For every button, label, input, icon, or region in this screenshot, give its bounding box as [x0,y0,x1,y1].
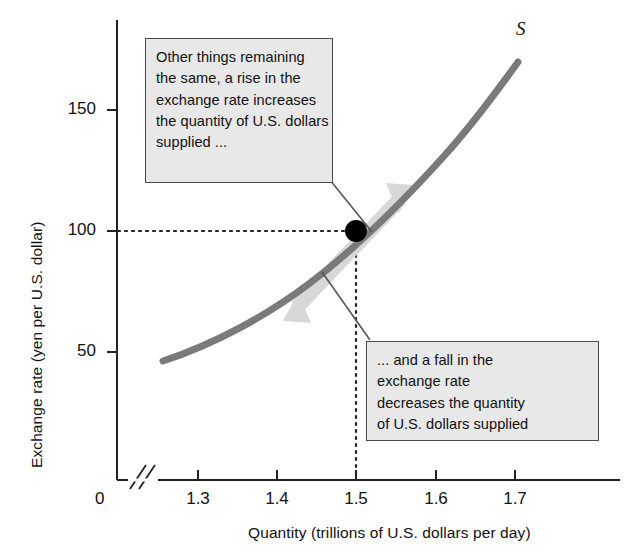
callout-fall-in-exchange-rate: ... and a fall in the exchange rate decr… [366,341,599,441]
callout-rise-in-exchange-rate: Other things remaining the same, a rise … [145,38,333,183]
x-tick-label-1-3: 1.3 [175,489,221,509]
supply-curve-label: S [516,18,526,40]
x-tick-label-1-6: 1.6 [413,489,459,509]
y-tick-label-150: 150 [52,99,96,119]
x-tick-label-1-5: 1.5 [333,489,379,509]
origin-label: 0 [95,489,104,509]
callout-fall-line-4: of U.S. dollars supplied [377,414,589,435]
x-axis-title: Quantity (trillions of U.S. dollars per … [248,524,531,542]
callout-fall-line-3: decreases the quantity [377,393,589,414]
x-tick-label-1-7: 1.7 [492,489,538,509]
callout-rise-line-2: the same, a rise in the [156,68,323,89]
x-axis-break-icon [128,465,158,489]
callout-rise-line-5: supplied ... [156,132,323,153]
leader-line-fall [322,272,370,340]
callout-rise-line-3: exchange rate increases [156,90,323,111]
y-tick-label-100: 100 [52,220,96,240]
equilibrium-point [345,220,367,242]
callout-fall-line-1: ... and a fall in the [377,350,589,371]
callout-rise-line-4: the quantity of U.S. dollars [156,111,323,132]
chart-figure: Exchange rate (yen per U.S. dollar) Quan… [0,0,631,560]
callout-rise-line-1: Other things remaining [156,47,323,68]
y-axis-title: Exchange rate (yen per U.S. dollar) [28,0,46,468]
callout-fall-line-2: exchange rate [377,371,589,392]
x-tick-label-1-4: 1.4 [254,489,300,509]
y-tick-label-50: 50 [52,341,96,361]
